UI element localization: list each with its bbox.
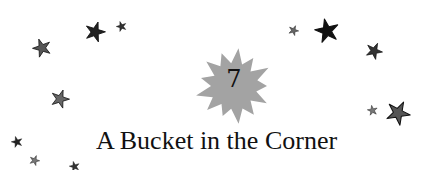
star-icon xyxy=(50,89,70,109)
star-icon xyxy=(69,161,80,171)
star-icon xyxy=(288,25,299,36)
star-icon xyxy=(365,42,383,60)
star-icon xyxy=(314,18,340,44)
star-icon xyxy=(385,100,411,126)
star-icon xyxy=(367,105,378,116)
star-icon xyxy=(32,38,52,58)
star-icon xyxy=(84,21,106,43)
chapter-number: 7 xyxy=(194,64,274,94)
chapter-title: A Bucket in the Corner xyxy=(0,125,433,157)
star-icon xyxy=(116,21,127,32)
